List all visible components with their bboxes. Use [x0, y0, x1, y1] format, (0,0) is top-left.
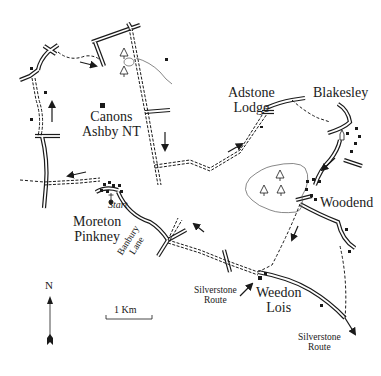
label-line: Lodge	[228, 101, 275, 116]
label-line: 1 Km	[114, 304, 137, 315]
tree-icons	[120, 48, 285, 196]
arrow-icon	[292, 226, 298, 240]
tree-icon	[120, 48, 128, 59]
north-label: N	[45, 280, 53, 292]
church-icon	[340, 130, 344, 140]
tree-icon	[120, 66, 128, 77]
footpaths	[20, 52, 346, 318]
arrow-icon	[345, 318, 355, 334]
start-label: Start	[108, 200, 127, 211]
label-line: Start	[108, 199, 127, 210]
label-line: Moreton	[73, 215, 121, 230]
map-graphics	[0, 0, 381, 376]
arrow-icon	[80, 62, 96, 66]
scale-label: 1 Km	[114, 305, 137, 316]
place-label-woodend: Woodend	[320, 196, 373, 211]
label-line: Route	[194, 296, 237, 306]
label-line: Lois	[256, 301, 302, 316]
route-label-silverstone-west: Silverstone Route	[194, 286, 237, 306]
tree-icon	[276, 170, 284, 181]
label-line: Pinkney	[73, 230, 121, 245]
tree-icon	[260, 185, 268, 196]
label-line: Canons	[82, 110, 141, 125]
place-label-canons-ashby: Canons Ashby NT	[82, 110, 141, 139]
tracks	[32, 28, 267, 275]
label-line: Ashby NT	[82, 125, 141, 140]
label-line: Blakesley	[313, 86, 368, 101]
building-icons	[30, 58, 361, 307]
tree-icon	[277, 185, 285, 196]
label-line: Woodend	[320, 196, 373, 211]
canons-ashby-building-icon	[100, 103, 105, 108]
label-line: Adstone	[228, 86, 275, 101]
label-line: Route	[298, 343, 341, 353]
north-arrow-icon	[47, 296, 53, 345]
walking-route-map: Canons Ashby NT Adstone Lodge Blakesley …	[0, 0, 381, 376]
arrow-icon	[194, 224, 204, 232]
arrow-icon	[68, 172, 86, 176]
place-label-blakesley: Blakesley	[313, 86, 368, 101]
route-label-silverstone-south: Silverstone Route	[298, 333, 341, 353]
arrow-icon	[240, 284, 252, 296]
arrow-icon	[228, 144, 242, 152]
place-label-weedon-lois: Weedon Lois	[256, 286, 302, 315]
scale-bar	[106, 315, 152, 319]
pond	[124, 58, 134, 66]
roads-inner	[20, 23, 362, 318]
place-label-adstone-lodge: Adstone Lodge	[228, 86, 275, 115]
stream	[136, 58, 172, 84]
label-line: Weedon	[256, 286, 302, 301]
place-label-moreton-pinkney: Moreton Pinkney	[73, 215, 121, 244]
roads	[20, 23, 362, 318]
label-line: N	[45, 279, 53, 291]
woodland-outline	[245, 163, 307, 212]
